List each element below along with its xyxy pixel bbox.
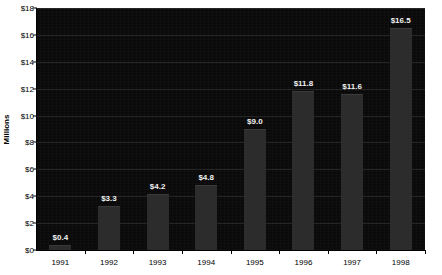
bar — [244, 129, 266, 250]
gridline — [36, 196, 425, 197]
bar-value-label: $11.8 — [294, 79, 314, 88]
bar — [292, 91, 314, 250]
x-axis-tick-mark — [279, 250, 280, 254]
bar-value-label: $11.6 — [342, 82, 362, 91]
bar-value-label: $3.3 — [101, 194, 117, 203]
x-axis-tick-mark — [328, 250, 329, 254]
x-axis-tick-label: 1996 — [295, 258, 313, 267]
bar-chart: Millions $0$2$4$6$8$10$12$14$16$18 $0.4$… — [0, 0, 442, 275]
gridline — [36, 8, 425, 9]
bar-value-label: $4.2 — [150, 182, 166, 191]
gridline — [36, 89, 425, 90]
y-axis-tick-marks — [0, 0, 40, 275]
gridline — [36, 169, 425, 170]
x-axis-tick-label: 1995 — [246, 258, 264, 267]
x-axis-tick-mark — [85, 250, 86, 254]
gridline — [36, 142, 425, 143]
x-axis-tick-label: 1998 — [392, 258, 410, 267]
bar-value-label: $4.8 — [198, 173, 214, 182]
gridline — [36, 223, 425, 224]
bar — [98, 206, 120, 250]
x-axis-tick-label: 1997 — [343, 258, 361, 267]
bar-value-label: $0.4 — [53, 233, 69, 242]
x-axis-tick-label: 1992 — [100, 258, 118, 267]
bar — [390, 28, 412, 250]
x-axis-tick-mark — [231, 250, 232, 254]
x-axis-tick-mark — [376, 250, 377, 254]
x-axis-tick-mark — [133, 250, 134, 254]
x-axis-tick-label: 1993 — [149, 258, 167, 267]
bar — [341, 94, 363, 250]
x-axis-tick-label: 1994 — [197, 258, 215, 267]
plot-background-texture — [36, 8, 425, 250]
bar — [195, 185, 217, 250]
bar-value-label: $16.5 — [391, 16, 411, 25]
x-axis-tick-mark — [425, 250, 426, 254]
gridline — [36, 35, 425, 36]
x-axis-tick-mark — [182, 250, 183, 254]
y-axis-line — [36, 8, 37, 251]
bar-value-label: $9.0 — [247, 117, 263, 126]
gridline — [36, 116, 425, 117]
bar — [147, 194, 169, 250]
x-axis-tick-label: 1991 — [51, 258, 69, 267]
gridline — [36, 62, 425, 63]
plot-area: $0.4$3.3$4.2$4.8$9.0$11.8$11.6$16.5 — [36, 8, 425, 250]
